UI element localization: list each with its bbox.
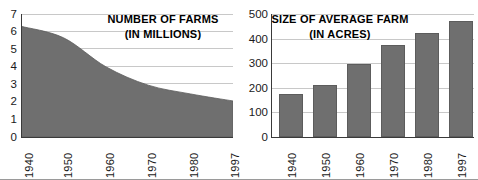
chart-size-of-average-farm: 500 400 300 200 100 0 SIZE OF AVERAGE FA… bbox=[239, 0, 478, 180]
y-tick-label: 2 bbox=[3, 96, 17, 108]
x-axis-labels-left: 1940 1950 1960 1970 1980 1997 bbox=[0, 139, 236, 180]
chart-title-subtitle: (IN ACRES) bbox=[265, 27, 415, 42]
y-tick-label: 6 bbox=[3, 26, 17, 38]
x-tick-label: 1940 bbox=[23, 153, 35, 178]
x-tick-label: 1940 bbox=[286, 153, 298, 178]
chart-number-of-farms: 7 6 5 4 3 2 1 0 NUMBER OF FARMS (IN MILL… bbox=[0, 0, 236, 180]
x-tick-label: 1960 bbox=[104, 153, 116, 178]
y-tick-label: 100 bbox=[239, 107, 268, 119]
plot-area-right: 500 400 300 200 100 0 SIZE OF AVERAGE FA… bbox=[239, 0, 478, 180]
y-tick-label: 4 bbox=[3, 61, 17, 73]
x-tick-label: 1970 bbox=[146, 153, 158, 178]
y-tick-label: 200 bbox=[239, 83, 268, 95]
chart-title-main: NUMBER OF FARMS bbox=[107, 13, 218, 25]
y-tick-label: 500 bbox=[239, 9, 268, 21]
plot-area-left: 7 6 5 4 3 2 1 0 NUMBER OF FARMS (IN MILL… bbox=[0, 0, 236, 180]
x-axis-line-right bbox=[271, 137, 474, 138]
x-tick-label: 1960 bbox=[354, 153, 366, 178]
x-tick-label: 1950 bbox=[62, 153, 74, 178]
chart-title-subtitle: (IN MILLIONS) bbox=[92, 27, 234, 42]
x-tick-label: 1950 bbox=[320, 153, 332, 178]
x-axis-labels-right: 1940 1950 1960 1970 1980 1997 bbox=[239, 139, 478, 180]
x-tick-label: 1980 bbox=[188, 153, 200, 178]
y-tick-label: 400 bbox=[239, 34, 268, 46]
x-axis-line-left bbox=[21, 137, 233, 138]
farms-statistics-figure: 7 6 5 4 3 2 1 0 NUMBER OF FARMS (IN MILL… bbox=[0, 0, 478, 180]
chart-title-left: NUMBER OF FARMS (IN MILLIONS) bbox=[92, 12, 234, 42]
y-tick-label: 1 bbox=[3, 114, 17, 126]
x-tick-label: 1970 bbox=[388, 153, 400, 178]
y-tick-label: 3 bbox=[3, 79, 17, 91]
y-tick-label: 7 bbox=[3, 9, 17, 21]
chart-title-main: SIZE OF AVERAGE FARM bbox=[271, 13, 408, 25]
y-tick-label: 5 bbox=[3, 44, 17, 56]
chart-title-right: SIZE OF AVERAGE FARM (IN ACRES) bbox=[265, 12, 415, 42]
x-tick-label: 1980 bbox=[422, 153, 434, 178]
x-tick-label: 1997 bbox=[456, 153, 468, 178]
y-tick-label: 300 bbox=[239, 58, 268, 70]
